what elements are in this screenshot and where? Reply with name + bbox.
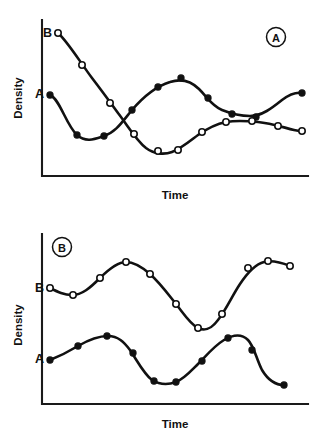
panel-a-x-axis-title: Time xyxy=(162,189,189,201)
panel-b-curve-a xyxy=(50,336,284,386)
two-panel-line-chart-figure: A B Time Density A xyxy=(0,0,320,444)
panel-b-badge: B xyxy=(53,238,72,257)
chart-panel-b: A B Time Density B xyxy=(0,222,320,444)
panel-b-series-label-b: B xyxy=(35,281,44,295)
panel-b-series-label-a: A xyxy=(35,352,44,366)
panel-b-x-axis-title: Time xyxy=(162,418,189,430)
panel-a-curve-a-markers xyxy=(47,75,305,139)
panel-a-curve-b xyxy=(58,33,302,154)
panel-b-curve-b xyxy=(50,261,290,329)
panel-b-y-axis-title: Density xyxy=(12,304,24,346)
panel-a-curve-a xyxy=(50,80,302,139)
panel-a-badge: A xyxy=(267,28,286,47)
chart-panel-a: A B Time Density A xyxy=(0,0,320,222)
panel-a-y-axis-title: Density xyxy=(12,77,24,119)
panel-b-badge-label: B xyxy=(58,242,66,254)
panel-a-series-label-a: A xyxy=(35,87,44,101)
panel-a-badge-label: A xyxy=(272,32,280,44)
panel-a-curve-b-markers xyxy=(55,30,305,154)
panel-b-curve-a-markers xyxy=(47,333,287,388)
panel-a-series-label-b: B xyxy=(43,26,52,40)
